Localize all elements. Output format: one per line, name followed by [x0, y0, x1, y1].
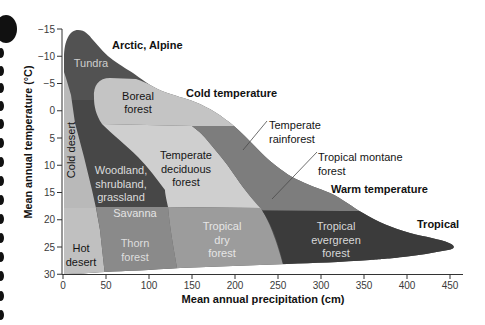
label-tropical-dry-forest: forest — [208, 247, 236, 259]
binding-hole — [0, 48, 4, 58]
binding-hole — [0, 157, 4, 167]
label-temperate-rainforest: rainforest — [269, 133, 315, 145]
label-savanna: Savanna — [113, 207, 157, 219]
x-axis-title: Mean annual precipitation (cm) — [182, 293, 345, 305]
label-boreal-forest: forest — [124, 103, 152, 115]
y-tick-label: 5 — [49, 133, 55, 144]
x-tick-label: 100 — [141, 280, 158, 291]
label-tropical-montane-forest: Tropical montane — [318, 151, 403, 163]
label-tropical-evergreen-forest: forest — [322, 247, 350, 259]
x-tick-label: 450 — [442, 280, 459, 291]
binding-hole-large — [0, 15, 17, 43]
label-woodland: Woodland, — [95, 164, 147, 176]
y-tick-label: 20 — [44, 214, 56, 225]
x-tick-label: 400 — [399, 280, 416, 291]
label-temperate-deciduous-forest: deciduous — [161, 163, 212, 175]
x-tick-label: 250 — [270, 280, 287, 291]
binding-hole — [0, 83, 4, 93]
binding-hole — [0, 214, 4, 224]
y-tick-label: −10 — [38, 51, 55, 62]
label-thorn-forest: Thorn — [121, 237, 150, 249]
annotation-warm-temperature: Warm temperature — [331, 183, 428, 195]
label-woodland: grassland — [97, 191, 145, 203]
y-tick-label: 30 — [44, 269, 56, 280]
y-axis-title: Mean annual temperature (°C) — [22, 65, 34, 218]
label-tropical-montane-forest: forest — [318, 165, 346, 177]
annotation-tropical: Tropical — [417, 218, 459, 230]
x-tick-label: 350 — [356, 280, 373, 291]
label-cold-desert: Cold desert — [65, 122, 77, 178]
binding-hole — [0, 271, 4, 281]
label-thorn-forest: forest — [121, 251, 149, 263]
label-temperate-deciduous-forest: forest — [172, 176, 200, 188]
x-tick-label: 300 — [313, 280, 330, 291]
x-tick-label: 200 — [227, 280, 244, 291]
y-tick-label: −5 — [44, 78, 56, 89]
y-tick-label: 10 — [44, 160, 56, 171]
y-tick-label: −15 — [38, 24, 55, 35]
y-tick-label: 15 — [44, 187, 56, 198]
label-tropical-dry-forest: Tropical — [203, 220, 242, 232]
binding-hole — [0, 119, 4, 129]
y-tick-label: 25 — [44, 242, 56, 253]
binding-hole — [0, 233, 4, 243]
binding-hole — [0, 252, 4, 262]
binding-hole — [0, 101, 4, 111]
binding-hole — [0, 66, 4, 76]
x-tick-label: 0 — [60, 280, 66, 291]
label-woodland: shrubland, — [95, 178, 146, 190]
label-hot-desert: desert — [66, 256, 97, 268]
label-temperate-rainforest: Temperate — [269, 119, 321, 131]
label-tropical-evergreen-forest: Tropical — [317, 220, 356, 232]
label-tropical-dry-forest: dry — [214, 234, 230, 246]
label-temperate-deciduous-forest: Temperate — [160, 149, 212, 161]
y-axis: −15 −10 −5 0 5 10 15 20 25 30 — [38, 24, 62, 280]
label-boreal-forest: Boreal — [122, 90, 154, 102]
x-tick-label: 50 — [100, 280, 112, 291]
y-tick-label: 0 — [49, 105, 55, 116]
binding-hole — [0, 291, 4, 301]
binding-holes — [0, 15, 17, 320]
leader-line-temperate-rainforest — [243, 121, 267, 150]
binding-hole — [0, 310, 4, 320]
x-tick-label: 150 — [184, 280, 201, 291]
biome-chart: −15 −10 −5 0 5 10 15 20 25 30 0 50 100 1… — [0, 0, 485, 325]
label-tropical-evergreen-forest: evergreen — [311, 234, 361, 246]
x-axis: 0 50 100 150 200 250 300 350 400 450 — [60, 275, 463, 292]
binding-hole — [0, 195, 4, 205]
binding-hole — [0, 176, 4, 186]
label-hot-desert: Hot — [72, 242, 89, 254]
binding-hole — [0, 138, 4, 148]
annotation-cold-temperature: Cold temperature — [186, 87, 277, 99]
annotation-arctic-alpine: Arctic, Alpine — [112, 39, 183, 51]
label-tundra: Tundra — [74, 57, 109, 69]
